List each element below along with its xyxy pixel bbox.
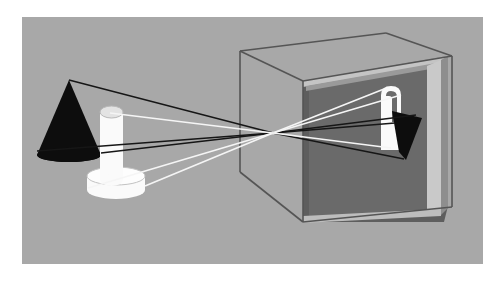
pinhole-camera-figure xyxy=(0,0,501,283)
screen-right-frame xyxy=(427,60,441,215)
figure-canvas xyxy=(0,0,501,283)
pinhole-aperture xyxy=(271,131,274,134)
screen-right-frame-shadow xyxy=(441,56,448,215)
